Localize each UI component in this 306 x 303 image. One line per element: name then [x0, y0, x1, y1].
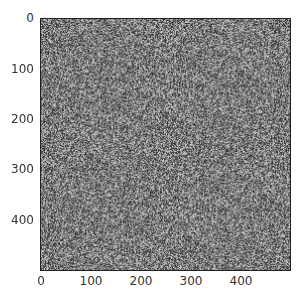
- y-tick-label: 200: [0, 112, 34, 126]
- image-plot-area: [40, 18, 291, 271]
- y-tick-label: 100: [0, 62, 34, 76]
- x-tick-label: 0: [26, 274, 56, 288]
- y-tick-label: 0: [0, 11, 34, 25]
- x-tick-label: 200: [126, 274, 156, 288]
- x-tick-label: 100: [76, 274, 106, 288]
- x-tick-label: 400: [226, 274, 256, 288]
- y-tick-label: 300: [0, 162, 34, 176]
- noise-image: [41, 19, 290, 270]
- y-tick-label: 400: [0, 213, 34, 227]
- x-tick-label: 300: [176, 274, 206, 288]
